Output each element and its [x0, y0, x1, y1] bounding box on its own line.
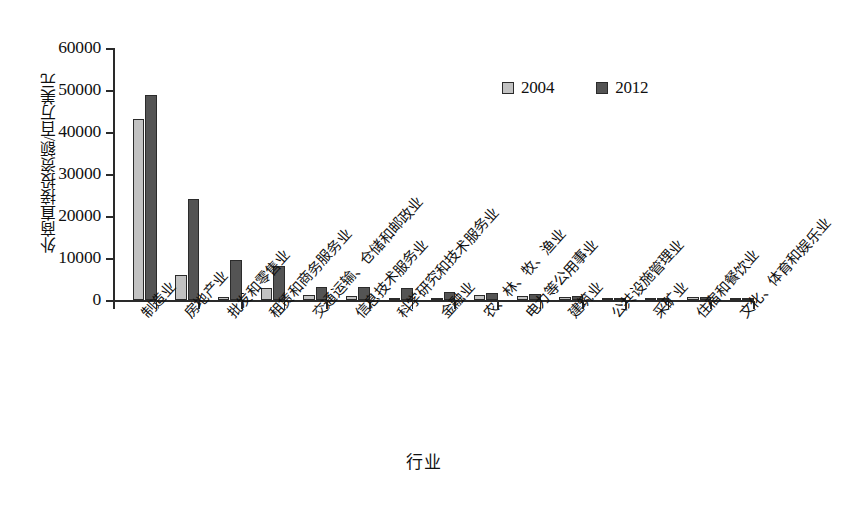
bar-group [730, 48, 754, 300]
bar-group [687, 48, 711, 300]
x-axis-line [113, 300, 754, 302]
y-axis-tick [106, 216, 113, 218]
y-axis-tick [106, 48, 113, 50]
bar-2004-14 [730, 298, 742, 300]
y-axis-tick [106, 132, 113, 134]
y-axis-tick-label: 0 [92, 289, 101, 310]
bar-2012-2 [230, 260, 242, 300]
bar-group [474, 48, 498, 300]
x-axis-tick [412, 301, 414, 309]
legend-swatch-2012 [596, 82, 608, 94]
x-axis-tick [582, 301, 584, 309]
y-axis-tick-label: 50000 [58, 79, 101, 100]
bar-2004-7 [431, 298, 443, 300]
bar-2004-8 [474, 295, 486, 300]
legend: 2004 2012 [502, 78, 648, 98]
bar-group [303, 48, 327, 300]
legend-label-2004: 2004 [521, 78, 554, 98]
x-axis-tick [540, 301, 542, 309]
bar-2012-13 [700, 297, 712, 300]
x-axis-tick [710, 301, 712, 309]
bar-2004-0 [133, 119, 145, 300]
bar-2004-5 [346, 296, 358, 300]
x-axis-tick [241, 301, 243, 309]
bar-2004-3 [261, 288, 273, 300]
x-axis-tick [497, 301, 499, 309]
x-axis-tick [284, 301, 286, 309]
x-axis-tick [753, 301, 755, 309]
x-axis-tick [113, 301, 115, 309]
bar-2012-4 [316, 287, 328, 300]
x-axis-title: 行业 [406, 448, 442, 473]
bar-2012-1 [188, 199, 200, 300]
x-axis-tick [156, 301, 158, 309]
y-axis-tick [106, 90, 113, 92]
x-axis-tick [625, 301, 627, 309]
bar-2004-1 [175, 275, 187, 300]
bar-2012-9 [529, 294, 541, 300]
y-axis-tick-label: 40000 [58, 121, 101, 142]
bar-2012-3 [273, 266, 285, 300]
x-axis-tick [369, 301, 371, 309]
legend-item-2012: 2012 [596, 78, 648, 98]
bar-2004-13 [687, 297, 699, 300]
bar-2012-8 [486, 293, 498, 300]
bar-group [218, 48, 242, 300]
legend-label-2012: 2012 [615, 78, 648, 98]
bar-2004-9 [517, 296, 529, 300]
y-axis-tick-label: 10000 [58, 247, 101, 268]
bar-2012-14 [742, 298, 754, 300]
x-axis-tick [454, 301, 456, 309]
bar-2004-11 [602, 298, 614, 300]
bar-2012-6 [401, 288, 413, 300]
y-axis-tick [106, 258, 113, 260]
bar-2004-6 [389, 298, 401, 300]
bar-2012-0 [145, 95, 157, 300]
bar-2012-12 [657, 298, 669, 300]
bar-2004-12 [645, 298, 657, 300]
x-axis-tick [326, 301, 328, 309]
bar-2012-11 [614, 298, 626, 300]
bar-2012-10 [572, 296, 584, 300]
bar-2004-2 [218, 297, 230, 300]
bar-2012-7 [444, 292, 456, 300]
bar-group [389, 48, 413, 300]
y-axis-tick-label: 30000 [58, 163, 101, 184]
bar-group [133, 48, 157, 300]
plot-area: 0100002000030000400005000060000 [113, 48, 753, 300]
bar-chart: 外商直接投资额/百万美元 010000200003000040000500006… [0, 0, 855, 505]
bar-group [431, 48, 455, 300]
bar-2004-10 [559, 297, 571, 300]
bar-group [175, 48, 199, 300]
y-axis-tick [106, 174, 113, 176]
bar-group [261, 48, 285, 300]
bar-2012-5 [358, 287, 370, 300]
legend-swatch-2004 [502, 82, 514, 94]
x-axis-tick [668, 301, 670, 309]
y-axis-tick [106, 300, 113, 302]
y-axis-tick-label: 60000 [58, 37, 101, 58]
legend-item-2004: 2004 [502, 78, 554, 98]
bar-group [346, 48, 370, 300]
bar-2004-4 [303, 295, 315, 300]
y-axis-tick-label: 20000 [58, 205, 101, 226]
x-axis-tick [198, 301, 200, 309]
